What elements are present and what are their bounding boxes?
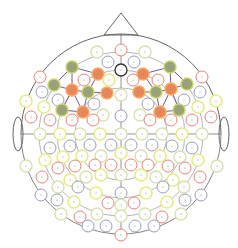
electrode-label-dot xyxy=(159,111,160,112)
electrode-label-dot xyxy=(85,176,86,177)
electrode-label-dot xyxy=(71,66,72,67)
eeg-montage-diagram: EEG electrode montage (top view) xyxy=(0,0,238,248)
electrode xyxy=(20,160,32,172)
electrode xyxy=(152,74,164,86)
electrode-label-dot xyxy=(216,165,217,166)
electrode-label-dot xyxy=(25,100,26,101)
electrode xyxy=(101,87,113,99)
electrode xyxy=(139,46,151,58)
electrode xyxy=(35,189,47,201)
electrode-label-dot xyxy=(130,164,131,165)
electrode-label-dot xyxy=(96,51,97,52)
electrode xyxy=(34,71,46,83)
electrode-label-dot xyxy=(142,73,143,74)
electrode-label-dot xyxy=(140,174,141,175)
electrode xyxy=(178,181,190,193)
electrode xyxy=(102,197,114,209)
electrode xyxy=(56,104,68,116)
electrode-label-dot xyxy=(69,145,70,146)
electrode xyxy=(115,64,127,76)
electrode xyxy=(103,74,115,86)
electrode xyxy=(57,151,69,163)
electrode xyxy=(128,197,140,209)
electrode xyxy=(154,150,166,162)
electrode xyxy=(205,111,217,123)
electrode-label-dot xyxy=(132,79,133,80)
electrode xyxy=(140,187,152,199)
electrode-label-dot xyxy=(120,215,121,216)
electrode-label-dot xyxy=(162,186,163,187)
electrode xyxy=(105,159,117,171)
electrode-label-dot xyxy=(200,194,201,195)
electrode xyxy=(157,181,169,193)
electrode-label-dot xyxy=(120,133,121,134)
electrode-label-dot xyxy=(120,174,121,175)
electrode xyxy=(179,194,191,206)
electrode-label-dot xyxy=(120,94,121,95)
electrode xyxy=(94,128,106,140)
electrode-label-dot xyxy=(120,69,121,70)
electrode xyxy=(196,128,208,140)
electrode-label-dot xyxy=(155,91,156,92)
electrode-label-dot xyxy=(186,83,187,84)
electrode-label-dot xyxy=(71,119,72,120)
electrode-label-dot xyxy=(97,73,98,74)
electrode-label-dot xyxy=(110,164,111,165)
electrode-label-dot xyxy=(69,179,70,180)
electrode-label-dot xyxy=(151,144,152,145)
electrode-label-dot xyxy=(140,155,141,156)
electrode-label-dot xyxy=(120,234,121,235)
electrode xyxy=(194,86,206,98)
electrode-label-dot xyxy=(105,225,106,226)
electrode-label-dot xyxy=(57,167,58,168)
electrode xyxy=(44,142,56,154)
electrode xyxy=(128,56,140,68)
electrode xyxy=(211,160,223,172)
electrode xyxy=(139,208,151,220)
electrode-label-dot xyxy=(184,199,185,200)
electrode xyxy=(162,160,174,172)
electrode xyxy=(115,187,127,199)
electrode-label-dot xyxy=(199,91,200,92)
electrode xyxy=(55,208,67,220)
electrode-label-dot xyxy=(161,133,162,134)
electrode xyxy=(91,46,103,58)
electrode-label-dot xyxy=(149,119,150,120)
electrode-label-dot xyxy=(39,133,40,134)
electrode-label-dot xyxy=(41,176,42,177)
electrode-label-dot xyxy=(73,201,74,202)
electrode-label-dot xyxy=(141,133,142,134)
electrode xyxy=(102,56,114,68)
electrode xyxy=(90,187,102,199)
electrode xyxy=(135,169,147,181)
electrode xyxy=(166,140,178,152)
electrode xyxy=(95,169,107,181)
electrode xyxy=(196,71,208,83)
electrode-label-dot xyxy=(199,176,200,177)
electrode xyxy=(175,208,187,220)
electrode-label-dot xyxy=(110,144,111,145)
electrode-label-dot xyxy=(49,119,50,120)
electrode-label-dot xyxy=(155,176,156,177)
electrode-label-dot xyxy=(170,88,171,89)
electrode-label-dot xyxy=(77,186,78,187)
electrode xyxy=(25,111,37,123)
electrode xyxy=(36,171,48,183)
electrode xyxy=(210,95,222,107)
electrode xyxy=(125,159,137,171)
electrodes xyxy=(20,44,223,241)
electrode xyxy=(115,199,127,211)
electrode xyxy=(68,196,80,208)
electrode-label-dot xyxy=(79,216,80,217)
electrode xyxy=(179,162,191,174)
electrode-label-dot xyxy=(83,79,84,80)
electrode-label-dot xyxy=(120,152,121,153)
electrode-label-dot xyxy=(130,144,131,145)
electrode xyxy=(164,61,176,73)
electrode xyxy=(105,139,117,151)
electrode xyxy=(115,44,127,56)
electrode-label-dot xyxy=(93,103,94,104)
electrode-label-dot xyxy=(197,159,198,160)
electrode-label-dot xyxy=(59,133,60,134)
electrode xyxy=(181,78,193,90)
